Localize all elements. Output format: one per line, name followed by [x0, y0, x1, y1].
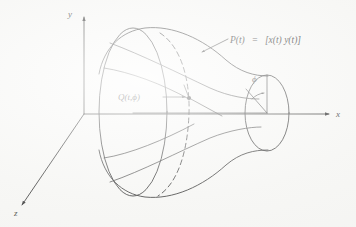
- point-label-group: Q(t,ϕ): [118, 92, 185, 102]
- curve-label-lhs: P(t): [229, 35, 245, 46]
- y-axis-label: y: [67, 9, 72, 19]
- generating-curve-label: P(t) = [x(t) y(t)]: [229, 35, 301, 46]
- rotation-angle-label: ϕ: [252, 74, 257, 84]
- z-axis-line: [22, 114, 84, 205]
- surface-point-label: Q(t,ϕ): [118, 92, 140, 102]
- right-cap-rotated-radius: [246, 89, 267, 113]
- hidden-waist-circle-dashed: [158, 33, 189, 196]
- curve-label-leader-line: [202, 39, 228, 52]
- rotation-angle-group: ϕ: [246, 74, 267, 113]
- hyperboloid-surface-group: [99, 28, 289, 198]
- curve-label-rhs: [x(t) y(t)]: [265, 35, 301, 46]
- x-axis-label: x: [335, 109, 340, 119]
- surface-point-node: [187, 96, 191, 100]
- figure-root: y x z: [0, 0, 356, 227]
- curve-label-equals: =: [252, 35, 257, 45]
- z-axis-label: z: [13, 208, 18, 218]
- surface-ruling-line-lower-left: [104, 124, 194, 158]
- diagram-canvas: y x z: [0, 0, 356, 227]
- surface-ruling-line-lower-sweep: [110, 127, 261, 182]
- curve-label-group: P(t) = [x(t) y(t)]: [202, 35, 301, 52]
- large-end-circle: [99, 28, 167, 196]
- lower-profile-curve: [99, 150, 268, 197]
- surface-ruling-line-upper-left: [104, 68, 189, 99]
